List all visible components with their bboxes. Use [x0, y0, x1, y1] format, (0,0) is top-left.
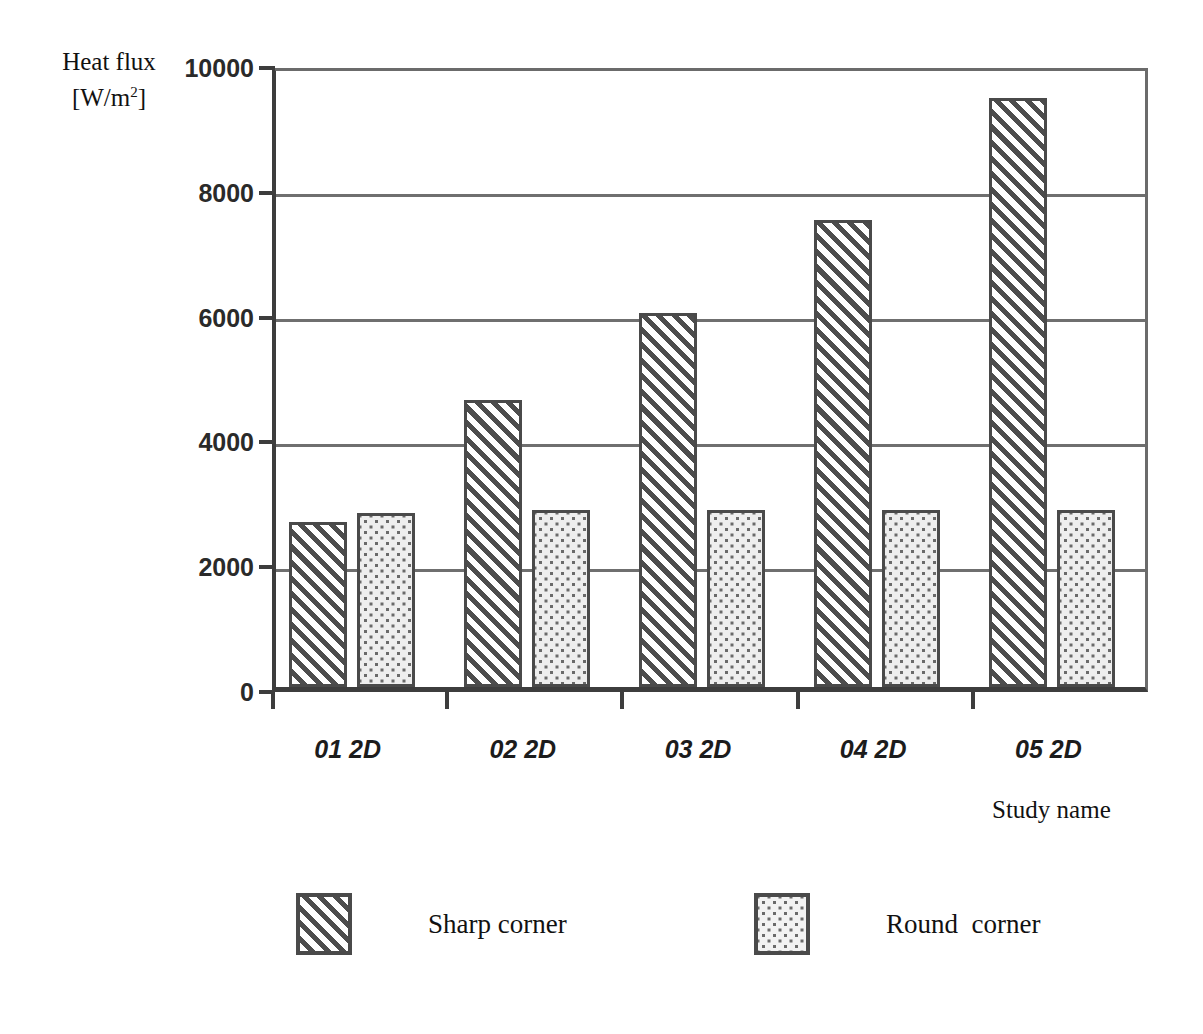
y-tick-mark [259, 565, 275, 569]
bar-sharp-corner [639, 313, 697, 687]
legend-swatch-round-corner-icon [754, 893, 810, 955]
x-tick-mark [620, 692, 624, 709]
legend-entry-sharp-corner: Sharp corner [296, 893, 567, 955]
x-tick-label: 05 2D [948, 735, 1148, 764]
y-tick-label: 2000 [134, 553, 254, 582]
y-tick-label: 8000 [134, 178, 254, 207]
y-tick-mark [259, 66, 275, 70]
y-tick-label: 0 [134, 678, 254, 707]
legend-label-sharp-corner: Sharp corner [428, 909, 567, 940]
legend-swatch-sharp-corner-icon [296, 893, 352, 955]
chart-legend: Sharp corner Round corner [296, 893, 1056, 973]
bar-round-corner [707, 510, 765, 687]
y-axis-unit-text: [W/m [72, 84, 130, 111]
x-tick-mark-origin [271, 692, 275, 709]
bar-round-corner [357, 513, 415, 687]
x-tick-mark [971, 692, 975, 709]
x-axis-title: Study name [992, 796, 1111, 824]
y-tick-label: 4000 [134, 428, 254, 457]
y-tick-label: 6000 [134, 303, 254, 332]
y-tick-mark [259, 316, 275, 320]
bar-sharp-corner [464, 400, 522, 687]
bar-sharp-corner [989, 98, 1047, 687]
bar-sharp-corner [814, 220, 872, 687]
bar-sharp-corner [289, 522, 347, 687]
x-tick-mark [445, 692, 449, 709]
x-tick-label: 04 2D [773, 735, 973, 764]
x-tick-mark [796, 692, 800, 709]
bar-round-corner [1057, 510, 1115, 687]
y-axis-unit-bracket: ] [138, 84, 146, 111]
bar-round-corner [882, 510, 940, 687]
bar-chart-figure: Heat flux [W/m2] 0200040006000800010000 … [0, 0, 1203, 1034]
y-tick-mark [259, 191, 275, 195]
x-tick-label: 02 2D [423, 735, 623, 764]
x-tick-label: 03 2D [598, 735, 798, 764]
bar-round-corner [532, 510, 590, 687]
x-tick-label: 01 2D [248, 735, 448, 764]
y-tick-label: 10000 [134, 54, 254, 83]
y-tick-mark [259, 440, 275, 444]
plot-area [272, 68, 1148, 692]
legend-label-round-corner: Round corner [886, 909, 1040, 940]
y-axis-unit-exponent: 2 [130, 84, 138, 100]
legend-entry-round-corner: Round corner [754, 893, 1040, 955]
